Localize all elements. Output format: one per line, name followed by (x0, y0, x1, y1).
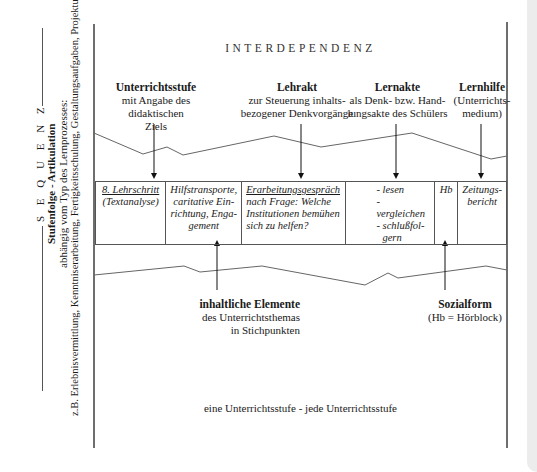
heading-line: des Unterrichtsthemas (170, 311, 300, 324)
cell-line: - vergleichen (376, 196, 429, 220)
lesson-step-row: 8. Lehrschritt (Textanalyse) Hilfstransp… (95, 181, 507, 245)
cell-line: sich zu helfen? (246, 220, 341, 232)
cell-lernakte: - lesen - vergleichen - schlußfol- gern (346, 182, 434, 245)
cell-line: - lesen (376, 184, 429, 196)
cell-line: - schlußfol- (376, 220, 429, 232)
cell-lehrakt: Erarbeitungsgespräch nach Frage: Welche … (242, 182, 346, 245)
heading-inhaltliche-elemente: inhaltliche Elemente des Unterrichtsthem… (170, 298, 300, 337)
cell-title: Erarbeitungsgespräch (246, 184, 341, 196)
cell-line: bericht (462, 196, 502, 208)
cell-inhalt: Hilfstransporte, caritative Ein- richtun… (166, 182, 242, 245)
footer-caption: eine Unterrichtsstufe - jede Unterrichts… (95, 402, 506, 414)
cell-lernhilfe: Zeitungs- bericht (458, 182, 507, 245)
cell-line: Zeitungs- (462, 184, 502, 196)
heading-line: (Hb = Hörblock) (420, 311, 510, 324)
cell-line: Institutionen bemühen (246, 208, 341, 220)
heading-sozialform-title: Sozialform (420, 298, 510, 311)
cell-line: caritative Ein- (170, 196, 237, 208)
cell-title: 8. Lehrschritt (100, 184, 161, 196)
cell-line: Hilfstransporte, (170, 184, 237, 196)
cell-line: gement (170, 220, 237, 232)
cell-line: Hb (439, 184, 453, 196)
cell-line: richtung, Enga- (170, 208, 237, 220)
cell-line: (Textanalyse) (100, 196, 161, 208)
heading-line: in Stichpunkten (170, 324, 300, 337)
cell-unterrichtsstufe: 8. Lehrschritt (Textanalyse) (96, 182, 166, 245)
heading-inhaltliche-elemente-title: inhaltliche Elemente (170, 298, 300, 311)
heading-sozialform: Sozialform (Hb = Hörblock) (420, 298, 510, 324)
cell-sozialform: Hb (434, 182, 457, 245)
cell-line: gern (376, 232, 429, 244)
cell-line: nach Frage: Welche (246, 196, 341, 208)
